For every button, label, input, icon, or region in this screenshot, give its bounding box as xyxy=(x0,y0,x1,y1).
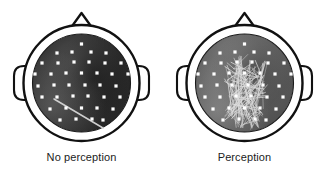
electrode-marker xyxy=(243,42,246,45)
electrode-marker xyxy=(282,61,285,64)
electrode-marker xyxy=(265,95,268,98)
electrode-marker xyxy=(246,83,249,86)
electrode-marker xyxy=(98,83,101,86)
electrode-marker xyxy=(64,71,67,74)
electrode-marker xyxy=(56,61,59,64)
electrode-marker xyxy=(80,106,83,109)
electrode-marker xyxy=(119,61,122,64)
electrode-marker xyxy=(80,42,83,45)
electrode-marker xyxy=(277,84,280,87)
electrode-marker xyxy=(235,60,238,63)
electrode-marker xyxy=(95,106,98,109)
electrode-marker xyxy=(49,72,52,75)
electrode-marker xyxy=(104,51,107,54)
electrode-marker xyxy=(211,107,214,110)
caption-perception: Perception xyxy=(163,150,326,164)
electrode-marker xyxy=(203,95,206,98)
electrode-marker xyxy=(243,71,246,74)
electrode-marker xyxy=(261,83,264,86)
electrode-marker xyxy=(203,61,206,64)
electrode-marker xyxy=(89,50,92,53)
electrode-marker xyxy=(58,118,61,121)
electrode-marker xyxy=(67,83,70,86)
head-diagram-perception xyxy=(163,0,326,150)
electrode-marker xyxy=(118,95,121,98)
electrode-marker xyxy=(111,107,114,110)
electrode-marker xyxy=(199,84,202,87)
electrode-marker xyxy=(102,95,105,98)
electrode-marker xyxy=(196,72,199,75)
electrode-marker xyxy=(55,51,58,54)
electrode-marker xyxy=(64,106,67,109)
electrode-marker xyxy=(114,84,117,87)
electrode-marker xyxy=(258,106,261,109)
electrode-marker xyxy=(289,72,292,75)
electrode-marker xyxy=(212,72,215,75)
electrode-marker xyxy=(40,95,43,98)
electrode-marker xyxy=(71,94,74,97)
electrode-marker xyxy=(80,71,83,74)
head-diagram-no-perception xyxy=(0,0,163,150)
electrode-marker xyxy=(110,72,113,75)
electrode-marker xyxy=(90,117,93,120)
electrode-marker xyxy=(266,61,269,64)
electrode-marker xyxy=(218,51,221,54)
electrode-marker xyxy=(95,71,98,74)
electrode-marker xyxy=(87,60,90,63)
electrode-marker xyxy=(52,83,55,86)
electrode-marker xyxy=(258,71,261,74)
electrode-marker xyxy=(33,72,36,75)
electrode-marker xyxy=(36,84,39,87)
electrode-marker xyxy=(234,94,237,97)
electrode-marker xyxy=(48,107,51,110)
electrode-marker xyxy=(252,50,255,53)
electrode-marker xyxy=(243,106,246,109)
eeg-connectivity-figure: No perception xyxy=(0,0,326,174)
electrode-marker xyxy=(86,94,89,97)
electrode-marker xyxy=(40,61,43,64)
electrode-marker xyxy=(250,60,253,63)
panel-perception: Perception xyxy=(163,0,326,174)
electrode-marker xyxy=(219,61,222,64)
electrode-marker xyxy=(249,94,252,97)
electrode-marker xyxy=(233,50,236,53)
caption-no-perception: No perception xyxy=(0,150,163,164)
electrode-marker xyxy=(230,83,233,86)
electrode-marker xyxy=(101,118,104,121)
electrode-marker xyxy=(267,51,270,54)
electrode-marker xyxy=(281,95,284,98)
electrode-marker xyxy=(55,95,58,98)
electrode-marker xyxy=(221,118,224,121)
electrode-marker xyxy=(103,61,106,64)
electrode-marker xyxy=(126,72,129,75)
electrode-marker xyxy=(237,117,240,120)
electrode-marker xyxy=(253,117,256,120)
electrode-marker xyxy=(274,107,277,110)
electrode-marker xyxy=(227,106,230,109)
electrode-marker xyxy=(70,50,73,53)
connection-line xyxy=(233,68,248,69)
electrode-marker xyxy=(227,71,230,74)
electrode-marker xyxy=(74,117,77,120)
electrode-marker xyxy=(83,83,86,86)
electrode-marker xyxy=(273,72,276,75)
electrode-marker xyxy=(218,95,221,98)
electrode-marker xyxy=(264,118,267,121)
electrode-marker xyxy=(72,60,75,63)
panel-no-perception: No perception xyxy=(0,0,163,174)
electrode-marker xyxy=(215,83,218,86)
